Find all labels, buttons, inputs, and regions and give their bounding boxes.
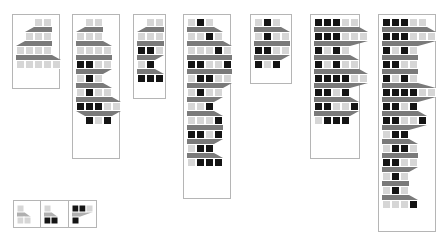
cell-light <box>359 74 368 83</box>
panel-content <box>251 15 291 83</box>
cell-dark <box>254 60 263 69</box>
cell-dark <box>382 46 391 55</box>
figure-canvas <box>0 0 447 251</box>
cell-dark <box>146 74 155 83</box>
cell-dark <box>196 18 205 27</box>
cell-dark <box>400 74 409 83</box>
cell-dark <box>254 46 263 55</box>
cell-light <box>196 46 205 55</box>
cell-dark <box>332 32 341 41</box>
cell-dark <box>196 144 205 153</box>
cell-light <box>43 32 52 41</box>
panel-content <box>184 15 230 198</box>
legend-glyph-icon <box>41 201 68 227</box>
cell-dark <box>391 32 400 41</box>
cell-dark <box>332 74 341 83</box>
cell-row <box>187 102 214 111</box>
cell-light <box>427 32 436 41</box>
cell-row <box>382 74 418 83</box>
cell-row <box>25 32 52 41</box>
cell-dark <box>332 46 341 55</box>
cell-dark <box>103 116 112 125</box>
cell-dark <box>382 88 391 97</box>
cell-dark <box>332 18 341 27</box>
cell-dark <box>391 88 400 97</box>
cell-light <box>341 18 350 27</box>
cell-dark <box>196 130 205 139</box>
cell-light <box>112 102 121 111</box>
panel-content <box>13 15 59 88</box>
cell-row <box>187 116 223 125</box>
cell-row <box>314 60 359 69</box>
cell-row <box>76 46 112 55</box>
cell-row <box>187 32 223 41</box>
cell-dark <box>196 158 205 167</box>
cell-row <box>187 88 223 97</box>
cell-row <box>76 102 121 111</box>
legend-cell-light <box>17 205 24 212</box>
cell-light <box>400 200 409 209</box>
cell-dark <box>205 32 214 41</box>
cell-light <box>409 116 418 125</box>
cell-light <box>187 116 196 125</box>
cell-light <box>34 18 43 27</box>
cell-dark <box>400 144 409 153</box>
cell-light <box>341 32 350 41</box>
legend-funnel <box>44 212 58 217</box>
cell-light <box>205 130 214 139</box>
cell-row <box>76 74 103 83</box>
cell-row <box>382 130 409 139</box>
cell-dark <box>323 116 332 125</box>
cell-light <box>281 32 290 41</box>
cell-light <box>314 116 323 125</box>
cell-light <box>400 116 409 125</box>
cell-light <box>205 116 214 125</box>
cell-light <box>155 18 164 27</box>
cell-light <box>94 46 103 55</box>
cell-dark <box>263 18 272 27</box>
cell-light <box>34 32 43 41</box>
cell-light <box>187 102 196 111</box>
cascade-panel <box>133 14 166 99</box>
cell-light <box>34 60 43 69</box>
cell-dark <box>400 46 409 55</box>
cell-light <box>350 74 359 83</box>
cell-dark <box>187 60 196 69</box>
cell-row <box>85 116 112 125</box>
legend-item-mixed <box>41 201 68 227</box>
cell-dark <box>263 46 272 55</box>
cell-light <box>76 46 85 55</box>
cell-dark <box>341 116 350 125</box>
cell-row <box>382 158 418 167</box>
cell-light <box>196 102 205 111</box>
cascade-panel <box>12 14 60 89</box>
cell-light <box>350 60 359 69</box>
cell-row <box>382 60 418 69</box>
cell-dark <box>314 60 323 69</box>
cell-light <box>76 74 85 83</box>
cell-row <box>137 32 164 41</box>
cell-dark <box>314 102 323 111</box>
legend-item-dark <box>69 201 96 227</box>
legend-box <box>13 200 97 228</box>
cascade-panel <box>378 14 436 232</box>
cell-dark <box>85 102 94 111</box>
cell-row <box>382 172 409 181</box>
cell-dark <box>400 130 409 139</box>
cell-light <box>85 32 94 41</box>
cell-light <box>400 186 409 195</box>
cell-row <box>382 18 427 27</box>
cell-dark <box>409 102 418 111</box>
cell-dark <box>205 158 214 167</box>
cell-light <box>187 88 196 97</box>
cell-light <box>146 32 155 41</box>
cell-light <box>103 46 112 55</box>
cell-dark <box>382 18 391 27</box>
cell-dark <box>214 130 223 139</box>
cell-row <box>76 32 103 41</box>
cell-light <box>223 46 232 55</box>
cell-light <box>52 60 61 69</box>
cell-dark <box>196 60 205 69</box>
legend-cell-light <box>44 205 51 212</box>
cell-light <box>409 60 418 69</box>
